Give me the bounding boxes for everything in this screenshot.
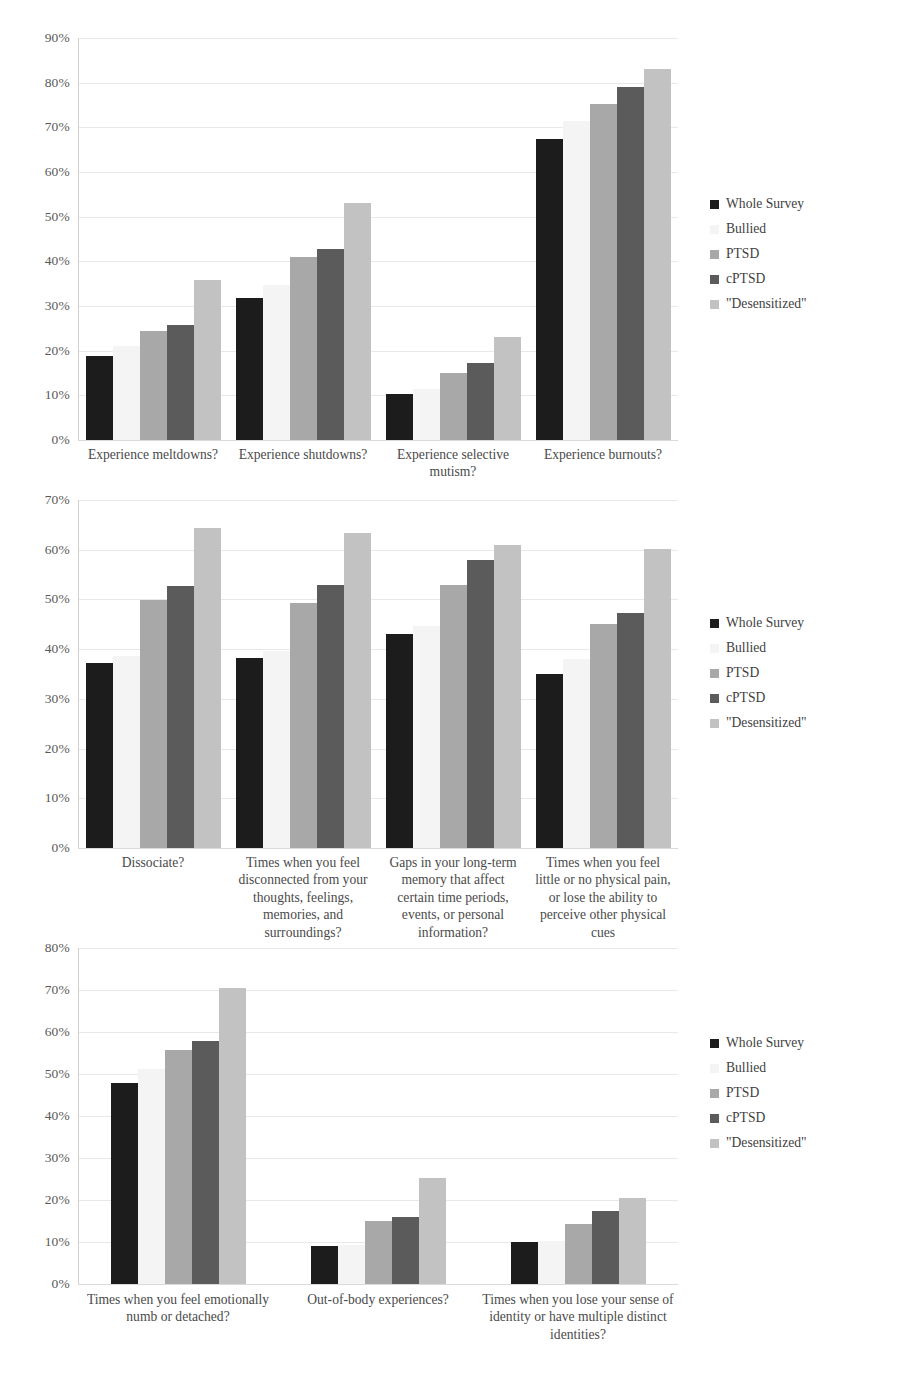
y-axis-tick-label: 10% [45, 387, 78, 403]
x-axis-label: Experience shutdowns? [228, 446, 378, 481]
legend-item[interactable]: Bullied [710, 1060, 807, 1076]
legend-item[interactable]: Bullied [710, 640, 807, 656]
bar-group [78, 948, 278, 1284]
y-axis-tick-label: 60% [45, 542, 78, 558]
legend-item[interactable]: cPTSD [710, 690, 807, 706]
legend-swatch-icon [710, 619, 719, 628]
legend-swatch-icon [710, 669, 719, 678]
legend-item[interactable]: "Desensitized" [710, 1135, 807, 1151]
legend-item[interactable]: Whole Survey [710, 615, 807, 631]
y-axis-tick-label: 20% [45, 741, 78, 757]
y-axis-tick-label: 0% [52, 432, 78, 448]
legend-swatch-icon [710, 275, 719, 284]
legend-item[interactable]: PTSD [710, 665, 807, 681]
legend-item[interactable]: cPTSD [710, 271, 807, 287]
legend-swatch-icon [710, 1064, 719, 1073]
bar [511, 1242, 538, 1284]
y-axis-tick-label: 70% [45, 982, 78, 998]
y-axis-tick-label: 70% [45, 119, 78, 135]
bar [563, 121, 590, 440]
bar [165, 1050, 192, 1284]
gridline [78, 1284, 678, 1285]
legend-swatch-icon [710, 644, 719, 653]
bar [536, 674, 563, 848]
x-axis-labels: Experience meltdowns?Experience shutdown… [78, 446, 678, 481]
legend-label: Bullied [726, 640, 766, 656]
legend-swatch-icon [710, 300, 719, 309]
bar-groups [78, 500, 678, 848]
bar [263, 285, 290, 440]
bar [440, 585, 467, 848]
y-axis-tick-label: 80% [45, 75, 78, 91]
legend-label: Whole Survey [726, 1035, 804, 1051]
legend-item[interactable]: Whole Survey [710, 196, 807, 212]
y-axis-tick-label: 30% [45, 691, 78, 707]
legend-item[interactable]: cPTSD [710, 1110, 807, 1126]
chart-legend: Whole SurveyBulliedPTSDcPTSD"Desensitize… [710, 615, 807, 731]
bar [644, 69, 671, 440]
bar [138, 1069, 165, 1284]
bar [140, 600, 167, 848]
legend-item[interactable]: PTSD [710, 1085, 807, 1101]
bar-group [228, 38, 378, 440]
legend-label: Bullied [726, 221, 766, 237]
x-axis-label: Experience selective mutism? [378, 446, 528, 481]
bar [194, 280, 221, 440]
bar [617, 87, 644, 440]
legend-label: cPTSD [726, 1110, 765, 1126]
bar [392, 1217, 419, 1284]
bar [192, 1041, 219, 1284]
x-axis-label: Experience meltdowns? [78, 446, 228, 481]
legend-label: Whole Survey [726, 615, 804, 631]
y-axis-tick-label: 0% [52, 840, 78, 856]
bar [219, 988, 246, 1284]
bar [536, 139, 563, 440]
bar-groups [78, 38, 678, 440]
y-axis-tick-label: 60% [45, 1024, 78, 1040]
legend-swatch-icon [710, 1114, 719, 1123]
bar [140, 331, 167, 440]
legend-item[interactable]: "Desensitized" [710, 296, 807, 312]
bar [467, 560, 494, 848]
bar [619, 1198, 646, 1284]
bar [592, 1211, 619, 1284]
y-axis-tick-label: 60% [45, 164, 78, 180]
bar [494, 545, 521, 848]
y-axis-tick-label: 30% [45, 1150, 78, 1166]
bar [413, 389, 440, 440]
legend-swatch-icon [710, 200, 719, 209]
y-axis-tick-label: 20% [45, 1192, 78, 1208]
plot-area: 0%10%20%30%40%50%60%70%80%90% [78, 38, 678, 440]
legend-item[interactable]: PTSD [710, 246, 807, 262]
legend-label: PTSD [726, 246, 759, 262]
bar [263, 651, 290, 848]
bar [563, 659, 590, 848]
legend-label: "Desensitized" [726, 1135, 807, 1151]
bar [338, 1245, 365, 1284]
bar-group [528, 500, 678, 848]
chart-legend: Whole SurveyBulliedPTSDcPTSD"Desensitize… [710, 1035, 807, 1151]
gridline [78, 440, 678, 441]
legend-item[interactable]: Whole Survey [710, 1035, 807, 1051]
y-axis-tick-label: 80% [45, 940, 78, 956]
bar-group [378, 500, 528, 848]
bar [113, 656, 140, 848]
bar-group [278, 948, 478, 1284]
y-axis-tick-label: 50% [45, 209, 78, 225]
y-axis-tick-label: 90% [45, 30, 78, 46]
legend-item[interactable]: Bullied [710, 221, 807, 237]
bar [317, 249, 344, 440]
y-axis-tick-label: 10% [45, 1234, 78, 1250]
bar [86, 356, 113, 440]
legend-item[interactable]: "Desensitized" [710, 715, 807, 731]
x-axis-labels: Dissociate?Times when you feel disconnec… [78, 854, 678, 941]
chart-legend: Whole SurveyBulliedPTSDcPTSD"Desensitize… [710, 196, 807, 312]
legend-label: PTSD [726, 1085, 759, 1101]
bar [344, 533, 371, 848]
bar [413, 626, 440, 848]
bar [311, 1246, 338, 1284]
y-axis-tick-label: 70% [45, 492, 78, 508]
y-axis-tick-label: 10% [45, 790, 78, 806]
bar [236, 658, 263, 848]
legend-label: "Desensitized" [726, 715, 807, 731]
